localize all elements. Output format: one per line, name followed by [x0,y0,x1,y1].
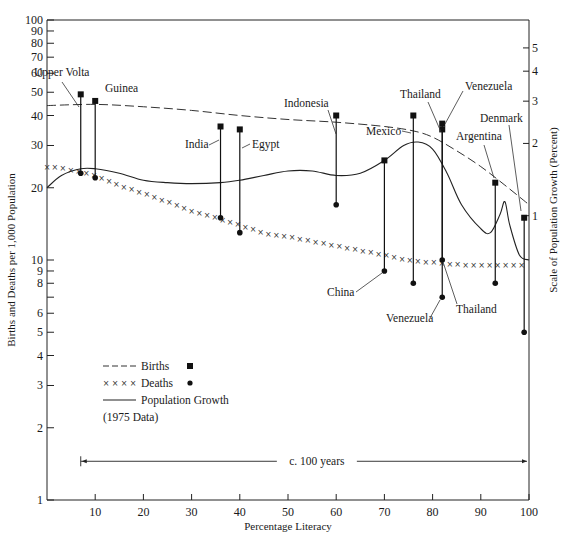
span-arrow-left [82,459,87,463]
y-tick-label: 8 [37,276,43,290]
legend-label: Population Growth [141,394,229,407]
death-cross-mark: × [422,258,429,267]
x-tick-label: 50 [282,505,294,519]
death-cross-mark: × [128,185,135,194]
death-marker [382,268,388,274]
birth-marker [218,123,224,129]
x-tick-label: 90 [475,505,487,519]
death-cross-mark: × [510,261,517,270]
x-tick-label: 30 [186,505,198,519]
death-cross-mark: × [227,218,234,227]
death-cross-mark: × [470,261,477,270]
country-label-indonesia: Indonesia [284,97,329,109]
span-arrow-right [522,459,527,463]
death-cross-mark: × [242,223,249,232]
death-cross-mark: × [204,211,211,220]
death-marker [333,202,339,208]
legend-swatch-deaths: × [130,379,137,388]
legend-swatch-deaths: × [112,379,119,388]
country-label-venezuela-bottom: Venezuela [386,312,433,324]
death-marker [92,175,98,181]
death-cross-mark: × [478,261,485,270]
death-cross-mark: × [281,232,288,241]
death-marker [521,329,527,335]
legend-swatch-deaths: × [121,379,128,388]
leader-line [509,125,521,211]
death-cross-mark: × [502,261,509,270]
death-cross-mark: × [336,242,343,251]
death-cross-mark: × [173,201,180,210]
y-tick-label: 4 [37,349,43,363]
legend-marker-square [187,363,193,369]
leader-line [402,131,411,133]
death-cross-mark: × [312,238,319,247]
death-cross-mark: × [60,164,67,173]
country-label-guinea: Guinea [105,82,138,94]
country-label-china: China [327,286,354,298]
country-label-thailand-top: Thailand [400,88,441,100]
death-cross-mark: × [344,244,351,253]
country-label-argentina: Argentina [456,130,502,143]
leader-line [445,91,463,124]
death-cross-mark: × [328,241,335,250]
y-tick-label: 3 [37,378,43,392]
x-tick-label: 10 [89,505,101,519]
x-tick-label: 40 [234,505,246,519]
country-label-mexico: Mexico [366,125,401,137]
x-tick-label: 60 [330,505,342,519]
birth-marker [410,113,416,119]
death-cross-mark: × [211,213,218,222]
y-tick-label: 5 [37,325,43,339]
death-cross-mark: × [415,257,422,266]
country-label-india: India [185,138,209,150]
death-cross-mark: × [188,207,195,216]
country-label-denmark: Denmark [480,112,523,124]
y2-tick-label: 5 [532,41,538,55]
death-cross-mark: × [273,231,280,240]
legend-label: Births [141,360,170,372]
y2-tick-label: 3 [532,94,538,108]
literacy-population-chart: 1234568910203040506070809010010203040506… [0,0,567,544]
death-cross-mark: × [265,230,272,239]
death-cross-mark: × [257,228,264,237]
death-cross-mark: × [166,198,173,207]
country-label-egypt: Egypt [252,138,280,151]
leader-line [209,140,219,145]
y2-tick-label: 4 [532,64,538,78]
death-cross-mark: × [320,239,327,248]
birth-marker [333,113,339,119]
leader-line [356,273,382,292]
death-marker [439,294,445,300]
birth-marker [237,126,243,132]
death-cross-mark: × [367,248,374,257]
y-axis-title: Births and Deaths per 1,000 Population [5,173,17,347]
death-cross-mark: × [106,177,113,186]
x-tick-label: 80 [427,505,439,519]
death-cross-mark: × [360,247,367,256]
death-cross-mark: × [375,250,382,259]
death-cross-mark: × [136,188,143,197]
birth-marker [78,91,84,97]
y2-axis-title: Scale of Population Growth (Percent) [547,127,560,293]
birth-marker [439,121,445,127]
y-tick-label: 70 [31,50,43,64]
legend-label: Deaths [141,377,173,389]
death-cross-mark: × [352,245,359,254]
death-cross-mark: × [250,225,257,234]
y2-tick-label: 2 [532,136,538,150]
y-tick-label: 100 [25,13,43,27]
y-tick-label: 6 [37,306,43,320]
death-marker [78,170,84,176]
death-cross-mark: × [113,180,120,189]
span-label: c. 100 years [289,455,345,468]
death-cross-mark: × [158,196,165,205]
death-cross-mark: × [399,255,406,264]
y-tick-label: 20 [31,181,43,195]
legend-note: (1975 Data) [103,411,158,424]
death-cross-mark: × [44,163,51,172]
death-cross-mark: × [196,209,203,218]
birth-marker [381,157,387,163]
legend: Births××××DeathsPopulation Growth(1975 D… [103,360,229,424]
death-cross-mark: × [304,236,311,245]
death-marker [218,215,224,221]
